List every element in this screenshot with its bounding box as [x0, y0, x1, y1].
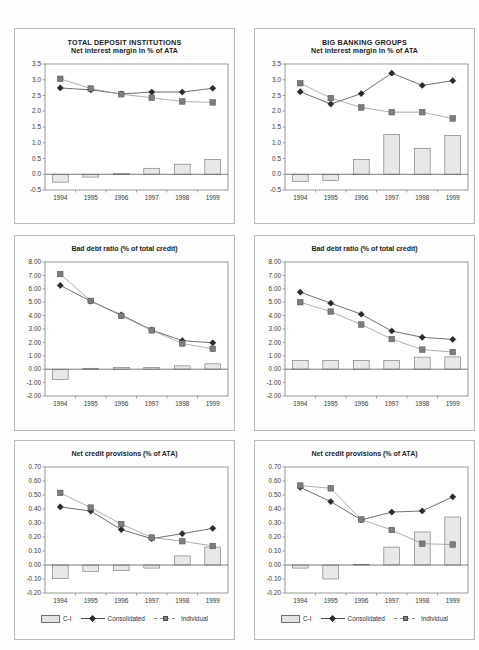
chart-title-block: BIG BANKING GROUPS Net interest margin i…	[255, 29, 474, 56]
legend-label-consolidated: Consolidated	[348, 615, 385, 622]
svg-text:-0.10: -0.10	[26, 575, 41, 582]
legend-label-individual: Individual	[181, 615, 208, 622]
svg-text:3.00: 3.00	[269, 325, 282, 332]
svg-text:1996: 1996	[354, 400, 369, 407]
svg-text:1996: 1996	[114, 194, 129, 201]
svg-text:1999: 1999	[446, 597, 461, 604]
svg-text:0.20: 0.20	[269, 533, 282, 540]
chart-subtitle: Net interest margin in % of ATA	[255, 47, 474, 56]
legend-item-consolidated[interactable]: Consolidated	[81, 615, 145, 622]
svg-text:1995: 1995	[84, 194, 99, 201]
line-square-marker-icon	[394, 615, 418, 622]
svg-text:1996: 1996	[354, 194, 369, 201]
legend-item-individual[interactable]: Individual	[154, 615, 208, 622]
svg-text:6.00: 6.00	[269, 285, 282, 292]
figure-page: TOTAL DEPOSIT INSTITUTIONS Net interest …	[0, 0, 479, 650]
chart-grid: TOTAL DEPOSIT INSTITUTIONS Net interest …	[0, 0, 479, 650]
legend-item-ci[interactable]: C-I	[41, 615, 72, 623]
svg-text:1999: 1999	[446, 194, 461, 201]
legend-label-individual: Individual	[421, 615, 448, 622]
legend-item-consolidated[interactable]: Consolidated	[321, 615, 385, 622]
svg-text:0.40: 0.40	[269, 505, 282, 512]
svg-text:1997: 1997	[385, 400, 400, 407]
chart-panel-big-banking-groups-nim: BIG BANKING GROUPS Net interest margin i…	[254, 28, 475, 224]
svg-text:3.5: 3.5	[272, 60, 281, 67]
svg-text:0.70: 0.70	[269, 463, 282, 470]
svg-text:1998: 1998	[415, 194, 430, 201]
svg-text:0.5: 0.5	[32, 154, 41, 161]
svg-text:1995: 1995	[324, 194, 339, 201]
svg-text:1997: 1997	[385, 597, 400, 604]
svg-text:1997: 1997	[145, 597, 160, 604]
svg-text:0.00: 0.00	[29, 365, 42, 372]
svg-text:2.00: 2.00	[29, 338, 42, 345]
svg-text:1.0: 1.0	[32, 139, 41, 146]
chart-title-block: Net credit provisions (% of ATA)	[15, 441, 234, 459]
svg-text:1999: 1999	[206, 597, 221, 604]
svg-text:1.5: 1.5	[32, 123, 41, 130]
svg-text:1996: 1996	[114, 597, 129, 604]
svg-text:1994: 1994	[53, 194, 68, 201]
svg-text:1999: 1999	[206, 400, 221, 407]
svg-text:1995: 1995	[324, 597, 339, 604]
chart-title: Net credit provisions (% of ATA)	[255, 450, 474, 459]
svg-text:1999: 1999	[206, 194, 221, 201]
svg-text:1994: 1994	[293, 400, 308, 407]
svg-text:2.0: 2.0	[32, 107, 41, 114]
svg-text:1.5: 1.5	[272, 123, 281, 130]
svg-text:5.00: 5.00	[29, 298, 42, 305]
svg-text:0.10: 0.10	[29, 547, 42, 554]
chart-title: BIG BANKING GROUPS	[255, 38, 474, 47]
plot-area: 3.53.02.52.01.51.00.50.0-0.5199419951996…	[255, 60, 474, 210]
chart-title-block: TOTAL DEPOSIT INSTITUTIONS Net interest …	[15, 29, 234, 56]
chart-panel-big-banking-groups-bad-debt: Bad debt ratio (% of total credit) 8.007…	[254, 235, 475, 431]
svg-text:1998: 1998	[175, 597, 190, 604]
svg-text:0.40: 0.40	[29, 505, 42, 512]
plot-area: 0.700.600.500.400.300.200.100.00-0.10-0.…	[255, 463, 474, 613]
chart-subtitle: Net interest margin in % of ATA	[15, 47, 234, 56]
svg-text:-0.5: -0.5	[270, 186, 281, 193]
svg-text:1996: 1996	[114, 400, 129, 407]
svg-text:-1.00: -1.00	[266, 379, 281, 386]
svg-text:1.00: 1.00	[29, 352, 42, 359]
svg-text:3.0: 3.0	[32, 76, 41, 83]
svg-text:1994: 1994	[293, 194, 308, 201]
svg-text:7.00: 7.00	[29, 271, 42, 278]
chart-legend: C-I Consolidated Individual	[255, 615, 474, 623]
svg-text:0.30: 0.30	[29, 519, 42, 526]
legend-item-ci[interactable]: C-I	[281, 615, 312, 623]
svg-text:0.00: 0.00	[269, 365, 282, 372]
svg-text:7.00: 7.00	[269, 271, 282, 278]
legend-item-individual[interactable]: Individual	[394, 615, 448, 622]
svg-text:-2.00: -2.00	[266, 392, 281, 399]
legend-label-consolidated: Consolidated	[108, 615, 145, 622]
chart-panel-big-banking-groups-provisions: Net credit provisions (% of ATA) 0.700.6…	[254, 440, 475, 640]
svg-text:1998: 1998	[415, 597, 430, 604]
chart-title-block: Net credit provisions (% of ATA)	[255, 441, 474, 459]
svg-text:2.5: 2.5	[32, 91, 41, 98]
chart-panel-total-deposit-institutions-bad-debt: Bad debt ratio (% of total credit) 8.007…	[14, 235, 235, 431]
svg-text:1998: 1998	[415, 400, 430, 407]
svg-text:3.00: 3.00	[29, 325, 42, 332]
plot-area: 8.007.006.005.004.003.002.001.000.00-1.0…	[15, 258, 234, 416]
svg-text:3.5: 3.5	[32, 60, 41, 67]
svg-text:1994: 1994	[53, 597, 68, 604]
svg-text:4.00: 4.00	[269, 312, 282, 319]
chart-title: TOTAL DEPOSIT INSTITUTIONS	[15, 38, 234, 47]
svg-text:0.60: 0.60	[269, 477, 282, 484]
svg-text:1997: 1997	[145, 194, 160, 201]
svg-text:-0.10: -0.10	[266, 575, 281, 582]
svg-text:3.0: 3.0	[272, 76, 281, 83]
svg-text:0.60: 0.60	[29, 477, 42, 484]
legend-label-ci: C-I	[303, 615, 312, 622]
svg-text:5.00: 5.00	[269, 298, 282, 305]
plot-area: 0.700.600.500.400.300.200.100.00-0.10-0.…	[15, 463, 234, 613]
chart-title: Bad debt ratio (% of total credit)	[15, 245, 234, 254]
svg-text:0.0: 0.0	[32, 170, 41, 177]
svg-text:-1.00: -1.00	[26, 379, 41, 386]
legend-label-ci: C-I	[63, 615, 72, 622]
svg-text:1996: 1996	[354, 597, 369, 604]
svg-text:0.5: 0.5	[272, 154, 281, 161]
svg-text:1995: 1995	[324, 400, 339, 407]
svg-text:0.30: 0.30	[269, 519, 282, 526]
